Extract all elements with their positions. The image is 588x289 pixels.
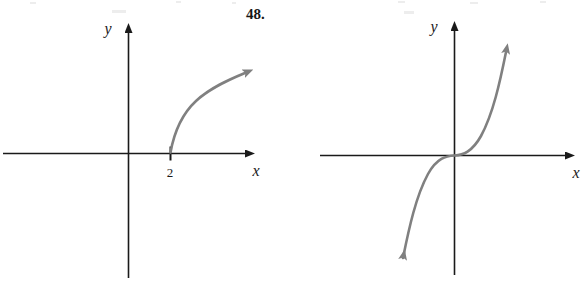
problem-number: 48. — [246, 6, 265, 23]
curve-square-root — [171, 73, 246, 153]
y-axis-label: y — [428, 18, 438, 36]
x-axis-label: x — [571, 164, 579, 181]
y-axis-label: y — [102, 20, 112, 38]
x-axis-label: x — [251, 162, 259, 179]
x-tick-label-2: 2 — [167, 165, 174, 180]
graph-right-cubic: y x — [294, 0, 588, 289]
graph-left-square-root: y x 2 — [0, 0, 294, 289]
worksheet-page: y x 2 48. — [0, 0, 588, 289]
